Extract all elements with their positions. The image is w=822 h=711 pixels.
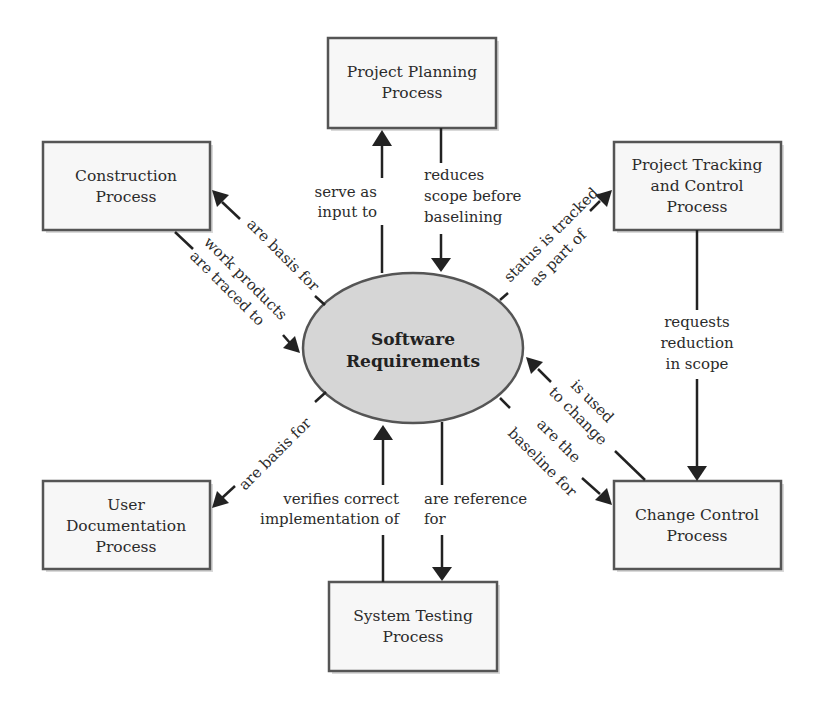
node-label: Change Control (635, 506, 759, 524)
arrow-down-icon (687, 466, 707, 481)
arrow-up-left-icon (212, 190, 229, 207)
edge-label: reduces (424, 166, 484, 184)
edge-are-reference-for: are reference for (424, 422, 527, 581)
center-label: Requirements (346, 351, 480, 371)
node-label: Process (96, 538, 157, 556)
edge-serve-as-input-to: serve as input to (314, 130, 392, 273)
node-project-tracking: Project Tracking and Control Process (614, 142, 784, 233)
edge-label: in scope (666, 355, 729, 373)
edge-label: are reference (424, 490, 527, 508)
node-label: Documentation (66, 517, 186, 535)
node-label: System Testing (353, 607, 473, 625)
center-label: Software (371, 329, 455, 349)
edge-label: implementation of (260, 510, 400, 528)
edge-label: for (424, 510, 447, 528)
edge-requests-reduction: requests reduction in scope (660, 230, 734, 481)
node-project-planning: Project Planning Process (328, 38, 499, 131)
node-label: Process (667, 198, 728, 216)
edge-reduces-scope: reduces scope before baselining (424, 128, 522, 272)
node-label: Process (96, 188, 157, 206)
arrow-down-icon (431, 258, 451, 272)
arrow-up-icon (373, 425, 393, 440)
node-label: Process (667, 527, 728, 545)
node-construction: Construction Process (43, 142, 213, 233)
edge-label: serve as (314, 183, 377, 201)
node-change-control: Change Control Process (614, 481, 784, 572)
node-label: Project Planning (347, 63, 478, 81)
node-label: Project Tracking (632, 156, 763, 174)
node-user-documentation: User Documentation Process (43, 481, 213, 572)
edge-label: scope before (424, 187, 522, 205)
node-label: Construction (75, 167, 177, 185)
edge-label: input to (317, 203, 377, 221)
software-requirements-diagram: Project Planning Process Construction Pr… (0, 0, 822, 711)
edge-label: reduction (660, 334, 734, 352)
arrow-up-icon (372, 130, 392, 146)
center-software-requirements: Software Requirements (303, 273, 523, 423)
edge-label: verifies correct (282, 490, 399, 508)
node-label: Process (383, 628, 444, 646)
edge-label: requests (664, 313, 730, 331)
node-label: and Control (650, 177, 743, 195)
arrow-down-icon (432, 567, 452, 581)
node-label: User (107, 496, 145, 514)
edge-label: are basis for (235, 413, 316, 494)
node-label: Process (382, 84, 443, 102)
edge-label: baselining (424, 208, 503, 226)
node-system-testing: System Testing Process (329, 582, 500, 674)
